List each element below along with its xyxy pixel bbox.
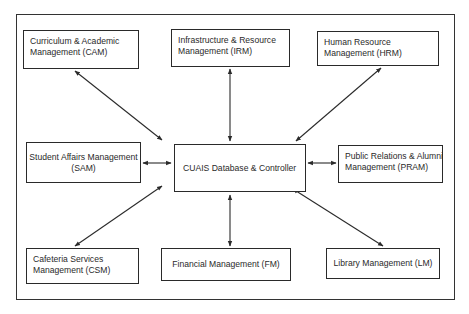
module-cam: Curriculum & Academic Management (CAM) — [23, 30, 139, 69]
module-lm: Library Management (LM) — [326, 248, 440, 279]
module-label-line: Library Management (LM) — [334, 258, 433, 269]
module-label-line: Cafeteria Services — [33, 254, 132, 265]
module-label-line: Student Affairs Management — [29, 152, 137, 163]
module-csm: Cafeteria Services Management (CSM) — [26, 248, 139, 284]
module-label-line: (SAM) — [71, 163, 95, 174]
central-database-controller: CUAIS Database & Controller — [174, 144, 306, 192]
module-irm: Infrastructure & Resource Management (IR… — [171, 29, 290, 67]
module-label-line: Management (CSM) — [33, 265, 132, 276]
module-label-line: Curriculum & Academic — [30, 36, 132, 47]
module-label-line: Management (CAM) — [30, 47, 132, 58]
module-hrm: Human Resource Management (HRM) — [317, 31, 439, 66]
module-label-line: Financial Management (FM) — [172, 259, 279, 270]
module-label-line: Management (HRM) — [324, 48, 432, 59]
module-sam: Student Affairs Management (SAM) — [26, 142, 141, 183]
module-fm: Financial Management (FM) — [161, 248, 291, 281]
module-label-line: Management (PRAM) — [345, 162, 436, 173]
module-label-line: Human Resource — [324, 37, 432, 48]
central-label: CUAIS Database & Controller — [183, 163, 296, 174]
module-label-line: Management (IRM) — [178, 46, 283, 57]
module-label-line: Public Relations & Alumni — [345, 151, 436, 162]
module-pram: Public Relations & Alumni Management (PR… — [338, 145, 443, 183]
module-label-line: Infrastructure & Resource — [178, 35, 283, 46]
